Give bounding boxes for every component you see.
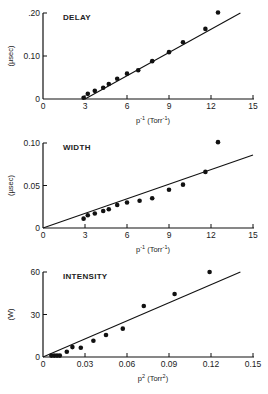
fit-line [43,272,240,357]
data-point [93,211,98,216]
x-tick-label: 6 [125,101,130,111]
data-point [172,292,177,297]
data-point [115,76,120,81]
data-point [203,170,208,175]
data-point [107,82,112,87]
chart-title: DELAY [63,13,91,22]
x-tick-label: 15 [248,101,258,111]
data-point [81,216,86,221]
data-point [107,207,112,212]
x-tick-label: 0 [41,230,46,240]
data-point [181,182,186,187]
x-tick-label: 0.12 [203,359,220,369]
data-point [125,71,130,76]
fit-line [43,155,253,228]
chart-panel-intensity: 00.030.060.090.120.1503060INTENSITY(W)p2… [6,267,262,383]
x-tick-label: 9 [167,230,172,240]
x-tick-label: 0.03 [77,359,94,369]
data-point [86,213,91,218]
data-point [91,338,96,343]
data-point [207,270,212,275]
chart-title: INTENSITY [63,272,108,281]
x-tick-label: 12 [206,101,216,111]
data-point [137,199,142,204]
data-point [93,89,98,94]
data-point [115,203,120,208]
y-tick-label: 0 [35,352,40,362]
y-tick-label: 60 [31,267,41,277]
data-point [79,345,84,350]
x-tick-label: 3 [83,101,88,111]
data-point [216,10,221,15]
data-point [150,196,155,201]
data-point [81,95,86,100]
y-axis-label: (W) [6,308,15,321]
data-point [142,304,147,309]
data-point [203,27,208,32]
data-point [167,50,172,55]
data-point [86,92,91,97]
data-point [70,345,75,350]
x-tick-label: 15 [248,230,258,240]
data-point [121,326,126,331]
x-axis-label: p-1 (Torr-1) [136,244,170,254]
y-tick-label: 0 [35,223,40,233]
x-tick-label: 0.06 [119,359,136,369]
x-tick-label: 9 [167,101,172,111]
data-point [101,86,106,91]
data-point [104,333,109,338]
x-tick-label: 12 [206,230,216,240]
data-point [136,68,141,73]
chart-panel-delay: 0369121500.10.20DELAY(µsec)p-1 (Torr-1) [6,8,258,125]
y-tick-label: 0.10 [23,138,40,148]
y-tick-label: 0 [35,94,40,104]
x-tick-label: 3 [83,230,88,240]
data-point [65,349,70,354]
chart-title: WIDTH [63,143,91,152]
y-tick-label: 0.10 [23,51,40,61]
y-axis-label: (µsec) [6,45,15,66]
data-point [167,187,172,192]
figure: 0369121500.10.20DELAY(µsec)p-1 (Torr-1)0… [0,0,268,394]
x-tick-label: 0.15 [245,359,262,369]
data-point [181,40,186,45]
y-tick-label: .20 [28,8,40,18]
y-tick-label: 30 [31,310,41,320]
y-axis-label: (µsec) [6,175,15,196]
data-point [58,353,63,358]
x-axis-label: p-1 (Torr-1) [136,115,170,125]
x-tick-label: 6 [125,230,130,240]
data-point [216,140,221,145]
chart-figure: 0369121500.10.20DELAY(µsec)p-1 (Torr-1)0… [0,0,268,394]
x-tick-label: 0 [41,359,46,369]
x-tick-label: 0.09 [161,359,178,369]
data-point [101,209,106,214]
chart-panel-width: 0369121500.050.10WIDTH(µsec)p-1 (Torr-1) [6,138,258,254]
x-tick-label: 0 [41,101,46,111]
y-tick-label: 0.05 [23,181,40,191]
data-point [125,200,130,205]
x-axis-label: p2 (Torr2) [138,373,169,383]
data-point [150,59,155,64]
